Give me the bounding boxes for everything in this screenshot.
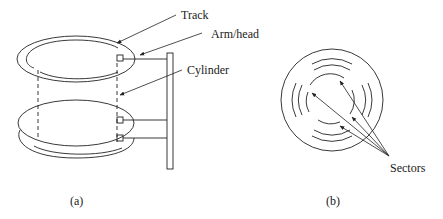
track-arc-left-2 (292, 83, 296, 117)
inner-track-arc-3 (318, 120, 340, 124)
track-arc-right-1 (362, 85, 365, 115)
actuator-bar (167, 53, 173, 169)
figure-a-caption: (a) (70, 194, 83, 208)
track-pointer-arrow (117, 15, 176, 43)
track-arc-right-2 (368, 83, 372, 117)
head-middle (117, 117, 123, 123)
track-label: Track (181, 8, 209, 22)
figure-b-caption: (b) (326, 194, 340, 208)
disk-geometry-diagram: Track Arm/head Cylinder (a) Sectors (b) (0, 0, 443, 219)
track-arc-bottom-2 (312, 136, 352, 141)
sectors-label: Sectors (390, 161, 426, 175)
arm-head-pointer-arrow (140, 33, 202, 55)
cylinder-label: Cylinder (187, 63, 229, 77)
figure-b-disk-surface (281, 49, 383, 151)
track-arc-bottom-1 (314, 130, 350, 135)
disk-outer-edge (281, 49, 383, 151)
track-arc-top (26, 40, 118, 68)
inner-track-arc-4 (306, 92, 309, 112)
arm-head-label: Arm/head (211, 27, 259, 41)
inner-track-arc-1 (310, 74, 344, 85)
track-arc-top-1 (314, 65, 350, 70)
track-arc-bottom (40, 72, 118, 79)
figure-a-platter-stack (17, 36, 173, 169)
track-arc-top-2 (312, 59, 352, 64)
head-top (117, 55, 123, 61)
sector-arrows (312, 81, 389, 156)
track-arc-left-1 (299, 85, 302, 115)
track-arc-bottom-platter (34, 146, 122, 154)
sector-arrow-1 (312, 93, 389, 156)
